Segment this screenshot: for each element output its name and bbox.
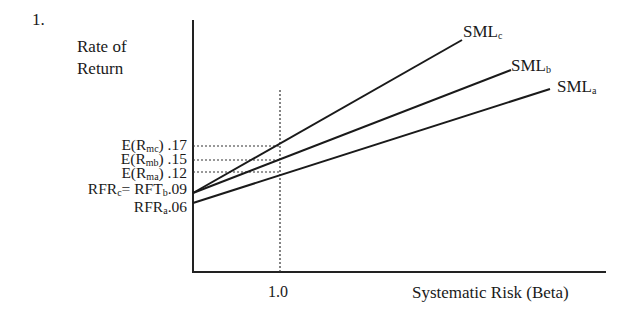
x-tick-1: 1.0 — [268, 283, 288, 301]
x-axis-label: Systematic Risk (Beta) — [412, 283, 569, 303]
sml-a-label: SMLa — [557, 77, 596, 97]
sml-b-label: SMLb — [511, 56, 551, 76]
chart-plot-area — [0, 0, 637, 313]
y-tick-rfr-c-b: RFRc= RFTb.09 — [88, 180, 187, 198]
y-tick-rfr-a: RFRa.06 — [134, 198, 187, 216]
sml-b-line — [193, 70, 511, 193]
sml-c-line — [193, 40, 462, 193]
sml-c-label: SMLc — [463, 22, 502, 42]
